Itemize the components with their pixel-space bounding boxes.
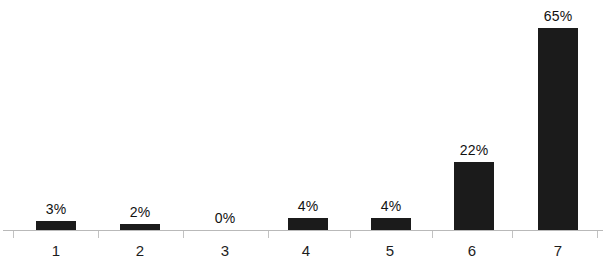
bar	[538, 28, 578, 230]
plot-area	[0, 0, 606, 231]
x-axis-tick	[13, 231, 14, 238]
bar-value-label: 3%	[26, 201, 86, 217]
x-axis-tick	[350, 231, 351, 238]
x-axis-category-label: 1	[26, 242, 86, 259]
bar-value-label: 22%	[444, 142, 504, 158]
x-axis-tick	[512, 231, 513, 238]
x-axis-category-label: 7	[528, 242, 588, 259]
bar-value-label: 0%	[195, 210, 255, 226]
x-axis-category-label: 4	[276, 242, 336, 259]
x-axis-tick	[268, 231, 269, 238]
bar-chart: 3% 2% 0% 4% 4% 22% 65% 1 2 3 4 5 6 7	[0, 0, 606, 267]
bar-value-label: 2%	[110, 204, 170, 220]
x-axis-tick	[98, 231, 99, 238]
bar	[36, 221, 76, 230]
x-axis-tick	[597, 231, 598, 238]
bar-value-label: 65%	[528, 8, 588, 24]
x-axis-category-label: 2	[110, 242, 170, 259]
bar-value-label: 4%	[361, 198, 421, 214]
bar	[288, 218, 328, 230]
x-axis-category-label: 6	[442, 242, 502, 259]
x-axis-category-label: 5	[360, 242, 420, 259]
bar	[454, 162, 494, 230]
bar	[120, 224, 160, 230]
x-axis-tick	[183, 231, 184, 238]
x-axis-tick	[432, 231, 433, 238]
x-axis-category-label: 3	[195, 242, 255, 259]
bar-value-label: 4%	[278, 198, 338, 214]
x-axis-line	[3, 230, 603, 231]
bar	[371, 218, 411, 230]
